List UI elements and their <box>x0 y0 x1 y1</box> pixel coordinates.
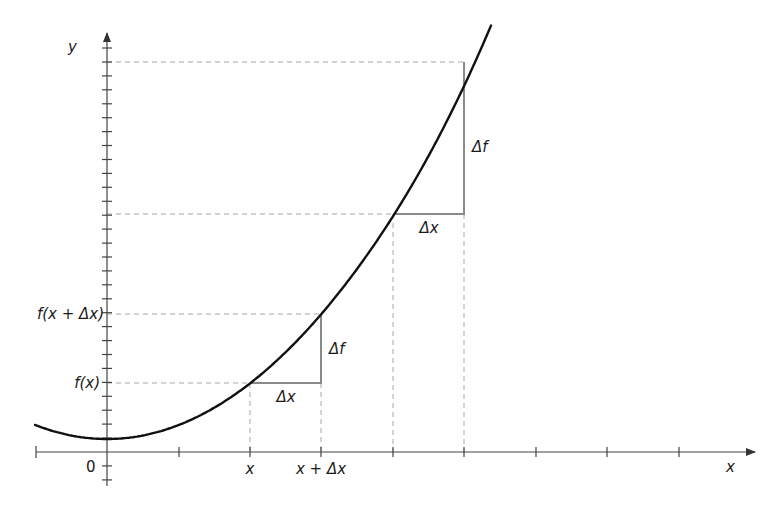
diagram-canvas: y x 0 x x + Δx f(x) f(x + Δx) Δx Δf Δx Δ… <box>0 0 777 506</box>
x-axis-label: x <box>725 458 735 476</box>
upper-triangle <box>393 62 464 214</box>
x-tick-label-x-plus-dx: x + Δx <box>295 460 346 478</box>
x-axis <box>36 446 755 458</box>
x-tick-label-x: x <box>245 460 255 478</box>
lower-triangle <box>250 314 321 383</box>
upper-dx-label: Δx <box>418 219 438 237</box>
lower-df-label: Δf <box>328 340 347 358</box>
y-tick-label-fx: f(x) <box>74 374 100 392</box>
y-axis-label: y <box>67 38 78 56</box>
y-tick-label-fxdx: f(x + Δx) <box>37 305 104 323</box>
lower-dx-label: Δx <box>275 388 295 406</box>
upper-df-label: Δf <box>471 138 490 156</box>
origin-label: 0 <box>86 458 96 476</box>
y-axis <box>102 33 112 486</box>
